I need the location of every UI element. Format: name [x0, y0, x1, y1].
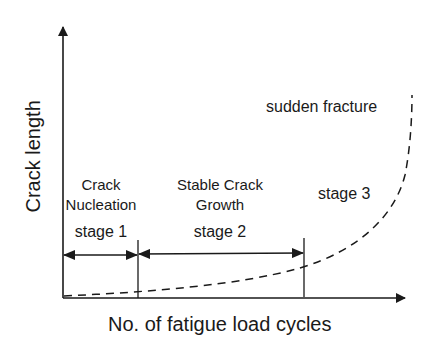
- stage3-label: stage 3: [318, 185, 370, 203]
- stage2-title-line2: Growth: [160, 196, 280, 214]
- x-axis-label: No. of fatigue load cycles: [108, 313, 331, 336]
- sudden-fracture-label: sudden fracture: [266, 98, 377, 116]
- stage2-label: stage 2: [170, 223, 270, 241]
- y-axis-label: Crack length: [22, 103, 45, 213]
- stage2-title-line1: Stable Crack: [160, 176, 280, 194]
- stage2-span-arrow: [139, 253, 303, 254]
- stage1-title-line2: Nucleation: [64, 196, 138, 214]
- stage1-title-line1: Crack: [64, 176, 138, 194]
- stage1-label: stage 1: [64, 223, 138, 241]
